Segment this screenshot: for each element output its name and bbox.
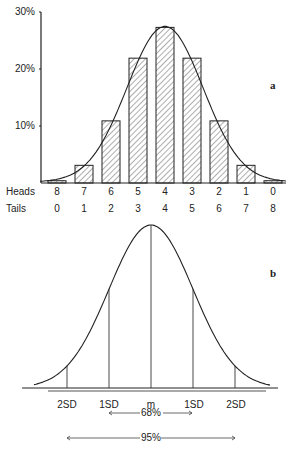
- heads-value: 0: [270, 187, 276, 197]
- heads-value: 2: [216, 187, 222, 197]
- bar: [102, 121, 120, 183]
- ytick-10: 10%: [15, 121, 35, 131]
- heads-value: 5: [135, 187, 141, 197]
- tails-value: 3: [135, 204, 141, 214]
- bar: [156, 27, 174, 183]
- heads-value: 1: [243, 187, 249, 197]
- label-68-percent: 68%: [141, 408, 161, 418]
- heads-value: 4: [162, 187, 168, 197]
- label-plus-2sd: 2SD: [226, 400, 245, 410]
- label-plus-1sd: 1SD: [184, 400, 203, 410]
- panel-label-b: b: [270, 268, 276, 278]
- histogram-bars: [48, 27, 282, 183]
- tails-value: 7: [243, 204, 249, 214]
- sd-lines: [67, 225, 235, 388]
- heads-value: 7: [81, 187, 87, 197]
- bar: [75, 165, 93, 183]
- tails-value: 6: [216, 204, 222, 214]
- normal-curve-b: [34, 225, 270, 385]
- label-95-percent: 95%: [141, 433, 161, 443]
- tails-value: 2: [108, 204, 114, 214]
- tails-value: 8: [270, 204, 276, 214]
- tails-value: 1: [81, 204, 87, 214]
- heads-value: 3: [189, 187, 195, 197]
- label-minus-2sd: 2SD: [57, 400, 76, 410]
- panel-label-a: a: [270, 80, 276, 90]
- figure-graphics: [0, 0, 298, 452]
- ytick-20: 20%: [15, 64, 35, 74]
- row-label-heads: Heads: [6, 187, 35, 197]
- bar: [237, 165, 255, 183]
- label-minus-1sd: 1SD: [99, 400, 118, 410]
- heads-value: 8: [54, 187, 60, 197]
- tails-value: 4: [162, 204, 168, 214]
- heads-value: 6: [108, 187, 114, 197]
- tails-value: 5: [189, 204, 195, 214]
- tails-value: 0: [54, 204, 60, 214]
- bar: [210, 121, 228, 183]
- row-label-tails: Tails: [6, 204, 26, 214]
- ytick-30: 30%: [15, 7, 35, 17]
